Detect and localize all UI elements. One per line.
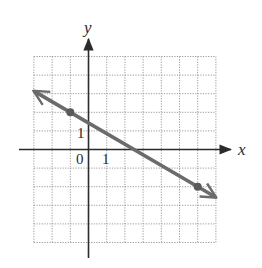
origin-label: 0 — [76, 151, 84, 167]
y-axis-label: y — [82, 18, 92, 37]
coordinate-plane: y x 1 0 1 — [0, 0, 262, 268]
x-tick-label-1: 1 — [102, 151, 110, 167]
data-point — [66, 108, 74, 116]
data-line — [35, 92, 215, 197]
x-axis-label: x — [237, 140, 246, 159]
plot-line — [35, 92, 215, 197]
data-point — [194, 183, 202, 191]
y-tick-label-1: 1 — [77, 125, 85, 141]
